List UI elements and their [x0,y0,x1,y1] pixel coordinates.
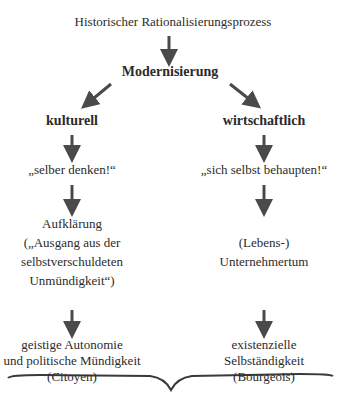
citoyen-node: geistige Autonomie und politische Mündig… [3,337,140,385]
kulturell-heading: kulturell [46,113,98,129]
unternehmertum-node: (Lebens-) Unternehmertum [220,233,309,271]
bourgeois-node: existenzielle Selbständigkeit (Bourgeois… [224,337,304,385]
root-node: Historischer Rationalisierungsprozess [75,14,272,30]
arrow-down-left-icon [88,84,111,103]
arrow-down-right-icon [230,84,254,103]
wirtschaftlich-motto: „sich selbst behaupten!“ [201,162,327,178]
modernisierung-node: Modernisierung [122,64,218,80]
aufklaerung-node: Aufklärung („Ausgang aus der selbstversc… [21,214,123,290]
kulturell-motto: „selber denken!“ [28,162,116,178]
wirtschaftlich-heading: wirtschaftlich [223,113,305,129]
